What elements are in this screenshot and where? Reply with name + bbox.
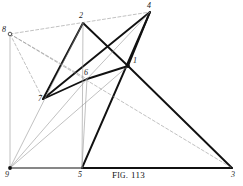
point-label-3: 3	[231, 171, 235, 179]
point-label-2: 2	[79, 12, 83, 20]
seg-1-3	[128, 66, 232, 168]
point-label-7: 7	[38, 95, 42, 103]
geometric-diagram	[0, 0, 243, 186]
point-label-8: 8	[2, 26, 6, 34]
caption-number: . 113	[126, 170, 145, 180]
point-label-1: 1	[133, 57, 137, 65]
seg-9-6	[10, 79, 87, 168]
seg-8-3	[10, 34, 232, 168]
figure-container: 123456789 FIG. 113	[0, 0, 243, 186]
seg-8-7	[10, 34, 43, 99]
point-marker-1	[126, 64, 130, 68]
figure-caption: FIG. 113	[112, 170, 145, 180]
point-label-9: 9	[5, 171, 9, 179]
seg-9-2	[10, 23, 83, 168]
segment-layer	[10, 12, 232, 168]
seg-9-1	[10, 66, 128, 168]
seg-5-2	[82, 23, 83, 168]
point-label-5: 5	[78, 171, 82, 179]
point-label-4: 4	[147, 2, 151, 10]
point-marker-8	[8, 32, 12, 36]
caption-smallcaps: IG	[117, 171, 126, 180]
point-label-6: 6	[84, 69, 88, 77]
